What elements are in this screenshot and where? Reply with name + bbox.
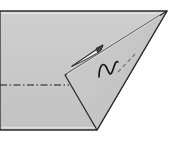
origami-diagram-container [0,0,173,143]
origami-diagram-svg [0,0,173,143]
